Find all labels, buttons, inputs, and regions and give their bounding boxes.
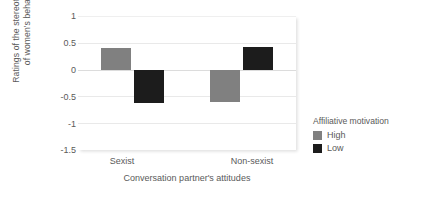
legend-title: Affiliative motivation	[313, 116, 421, 126]
bar-sexist-high	[101, 48, 130, 69]
legend: Affiliative motivation High Low	[313, 116, 421, 155]
legend-swatch-high-icon	[313, 131, 322, 140]
y-tick-label: 1	[42, 11, 76, 21]
y-tick-label: -1.5	[42, 145, 76, 155]
x-axis-title: Conversation partner's attitudes	[78, 173, 296, 183]
gridline-zero	[78, 70, 296, 71]
legend-item-low: Low	[313, 142, 421, 154]
bar-sexist-low	[134, 70, 163, 104]
y-tick-label: 0	[42, 65, 76, 75]
y-tick-label: 0.5	[42, 38, 76, 48]
chart-figure: Ratings of the stereotypicality of women…	[0, 0, 425, 203]
y-axis-title-line-1: Ratings of the stereotypicality	[11, 0, 22, 95]
y-tick-label: -1	[42, 119, 76, 129]
gridline	[78, 16, 296, 17]
bar-non-sexist-low	[243, 47, 272, 70]
gridline	[78, 43, 296, 44]
legend-label-low: Low	[327, 144, 344, 153]
plot-area	[78, 16, 296, 150]
legend-swatch-low-icon	[313, 144, 322, 153]
legend-label-high: High	[327, 131, 346, 140]
y-tick-label: -0.5	[42, 92, 76, 102]
gridline	[78, 96, 296, 97]
x-tick-label-sexist: Sexist	[78, 156, 166, 166]
x-tick-label-non-sexist: Non-sexist	[208, 156, 296, 166]
y-axis-title: Ratings of the stereotypicality of women…	[11, 0, 41, 95]
bar-non-sexist-high	[210, 70, 239, 102]
y-axis-tick-labels: 1 0.5 0 -0.5 -1 -1.5	[40, 0, 76, 203]
legend-item-high: High	[313, 129, 421, 141]
gridline	[78, 123, 296, 124]
y-axis-title-line-2: of women's behavior	[22, 0, 33, 95]
